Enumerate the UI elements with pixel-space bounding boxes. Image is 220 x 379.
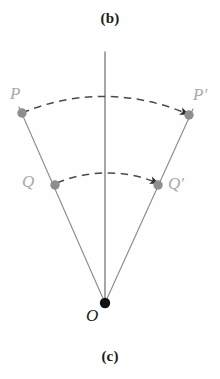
point-label-Q: Q (22, 172, 34, 192)
radial-lines-group (19, 52, 193, 303)
point-marker-P (17, 108, 26, 117)
point-label-P: P (10, 84, 20, 104)
point-marker-Q (50, 180, 59, 189)
radius-line-right (105, 109, 193, 303)
point-marker-Q-prime (153, 180, 162, 189)
point-marker-O-origin (100, 298, 110, 308)
inner-rotation-arc (57, 173, 155, 183)
figure-container: (b) P P′ (0, 0, 220, 379)
outer-rotation-arc (22, 96, 185, 113)
point-label-P-prime: P′ (193, 85, 207, 105)
point-label-O: O (86, 306, 98, 326)
point-marker-P-prime (184, 110, 193, 119)
radius-line-left (19, 107, 105, 303)
panel-caption-c: (c) (0, 348, 220, 365)
point-label-Q-prime: Q′ (168, 174, 184, 194)
